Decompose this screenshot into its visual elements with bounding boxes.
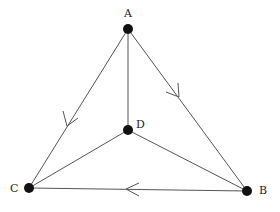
- node-c: [24, 183, 34, 193]
- node-a: [123, 24, 133, 34]
- graph-diagram: A D C B: [0, 0, 280, 212]
- node-d: [123, 125, 133, 135]
- edge-d-b: [128, 130, 247, 191]
- edge-a-c: [29, 29, 128, 188]
- edge-b-c: [29, 188, 247, 191]
- node-label-c: C: [10, 182, 18, 195]
- edge-a-b: [128, 29, 247, 191]
- node-label-b: B: [259, 184, 267, 197]
- edge-d-c: [29, 130, 128, 188]
- node-label-a: A: [123, 7, 133, 20]
- node-label-d: D: [136, 118, 145, 131]
- node-b: [242, 186, 252, 196]
